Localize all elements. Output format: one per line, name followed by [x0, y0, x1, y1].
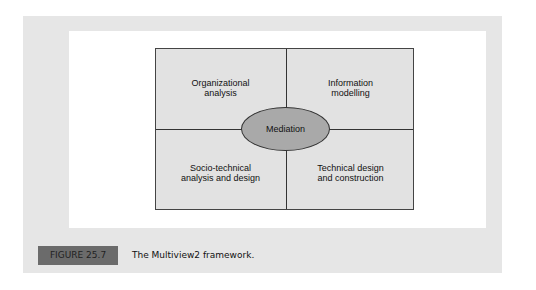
quadrant-organizational-analysis: Organizational analysis	[156, 78, 285, 98]
quadrant-text: analysis and design	[156, 173, 285, 183]
quadrant-socio-technical: Socio-technical analysis and design	[156, 163, 285, 183]
quadrant-text: Organizational	[156, 78, 285, 88]
quadrant-text: and construction	[286, 173, 415, 183]
quadrant-text: Socio-technical	[156, 163, 285, 173]
quadrant-text: Information	[286, 78, 415, 88]
mediation-label: Mediation	[266, 124, 305, 134]
figure-caption: The Multiview2 framework.	[132, 246, 254, 265]
quadrant-technical-design: Technical design and construction	[286, 163, 415, 183]
figure-number-badge: FIGURE 25.7	[38, 246, 118, 265]
quadrant-text: analysis	[156, 88, 285, 98]
quadrant-text: modelling	[286, 88, 415, 98]
quadrant-text: Technical design	[286, 163, 415, 173]
multiview-diagram: Organizational analysis Information mode…	[155, 48, 414, 210]
mediation-ellipse: Mediation	[241, 107, 330, 151]
quadrant-information-modelling: Information modelling	[286, 78, 415, 98]
